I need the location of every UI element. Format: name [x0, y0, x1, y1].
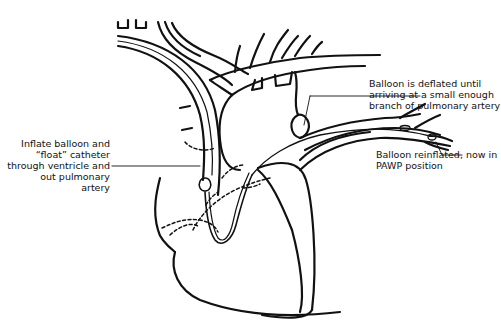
- label-line: Balloon is deflated until: [369, 78, 500, 89]
- label-line: PAWP position: [376, 160, 497, 171]
- label-line: artery: [6, 182, 110, 193]
- label-balloon-reinflated: Balloon reinflated, now in PAWP position: [376, 149, 497, 171]
- label-inflate-balloon: Inflate balloon and “float” catheter thr…: [6, 138, 110, 193]
- label-line: Balloon reinflated, now in: [376, 149, 497, 160]
- heart-catheter-diagram: Inflate balloon and “float” catheter thr…: [0, 0, 501, 326]
- label-line: arriving at a small enough: [369, 89, 500, 100]
- label-line: Inflate balloon and: [6, 138, 110, 149]
- label-line: through ventricle and: [6, 160, 110, 171]
- label-line: “float” catheter: [6, 149, 110, 160]
- label-line: out pulmonary: [6, 171, 110, 182]
- label-line: branch of pulmonary artery: [369, 100, 500, 111]
- label-balloon-deflated: Balloon is deflated until arriving at a …: [369, 78, 500, 111]
